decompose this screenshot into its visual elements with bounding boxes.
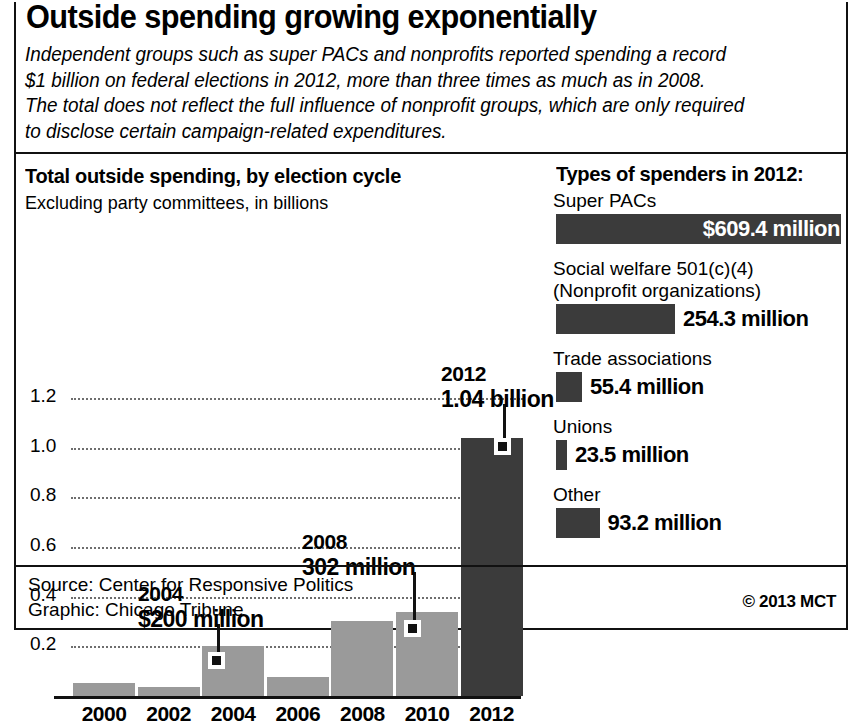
copyright-notice: © 2013 MCT — [742, 592, 836, 612]
y-axis-tick-1.0: 1.0 — [30, 435, 56, 457]
gridline-0.6 — [71, 547, 523, 549]
deck-text: Independent groups such as super PACs an… — [25, 42, 791, 144]
spender-bar — [556, 304, 675, 334]
gridline-0.8 — [71, 497, 523, 499]
spenders-title: Types of spenders in 2012: — [556, 162, 803, 186]
x-axis-line — [54, 696, 521, 699]
spender-value: 55.4 million — [590, 372, 704, 402]
bar-2008 — [331, 621, 393, 696]
x-axis-tick-2010: 2010 — [391, 702, 463, 725]
spender-bar-row: 23.5 million — [553, 440, 848, 470]
spenders-panel: Types of spenders in 2012: Super PACs$60… — [553, 158, 848, 563]
x-axis-tick-2002: 2002 — [133, 702, 205, 725]
spender-bar-row: $609.4 million — [553, 214, 848, 244]
callout-year-2012: 2012 — [441, 362, 554, 386]
callout-marker-2004 — [208, 652, 225, 669]
spender-label: Super PACs — [553, 190, 848, 212]
spender-item: Trade associations55.4 million — [553, 348, 848, 402]
gridline-1.0 — [71, 448, 523, 450]
spender-label: Unions — [553, 416, 848, 438]
callout-marker-2008 — [404, 620, 421, 637]
source-line: Source: Center for Responsive Politics — [28, 572, 353, 597]
spender-bar-row: 254.3 million — [553, 304, 848, 334]
spender-label: (Nonprofit organizations) — [553, 280, 848, 302]
spender-label: Trade associations — [553, 348, 848, 370]
page-title: Outside spending growing exponentially — [26, 0, 596, 36]
spender-value: $609.4 million — [703, 214, 840, 244]
bar-2006 — [267, 677, 329, 696]
spender-bar-row: 93.2 million — [553, 508, 848, 538]
x-axis-tick-2000: 2000 — [68, 702, 140, 725]
spender-value: 93.2 million — [608, 508, 722, 538]
bar-2000 — [73, 683, 135, 696]
deck-line-2: $1 billion on federal elections in 2012,… — [25, 68, 791, 94]
divider-bottom — [16, 565, 846, 567]
spender-item: Super PACs$609.4 million — [553, 190, 848, 244]
y-axis-tick-1.2: 1.2 — [30, 385, 56, 407]
y-axis-tick-0.8: 0.8 — [30, 484, 56, 506]
deck-line-4: to disclose certain campaign-related exp… — [25, 119, 791, 145]
bar-2002 — [138, 687, 200, 696]
callout-marker-2012 — [494, 438, 511, 455]
x-axis-tick-2006: 2006 — [262, 702, 334, 725]
x-axis-tick-2012: 2012 — [456, 702, 528, 725]
spender-item: Unions23.5 million — [553, 416, 848, 470]
deck-line-3: The total does not reflect the full infl… — [25, 93, 791, 119]
y-axis-tick-0.6: 0.6 — [30, 534, 56, 556]
spender-bar-row: 55.4 million — [553, 372, 848, 402]
spender-item: Social welfare 501(c)(4)(Nonprofit organ… — [553, 258, 848, 334]
y-axis-tick-0.2: 0.2 — [30, 633, 56, 655]
spender-label: Other — [553, 484, 848, 506]
x-axis-tick-2008: 2008 — [326, 702, 398, 725]
spender-label: Social welfare 501(c)(4) — [553, 258, 848, 280]
graphic-credit-line: Graphic: Chicago Tribune — [28, 597, 353, 622]
divider-top — [16, 152, 846, 154]
spender-value: 23.5 million — [575, 440, 689, 470]
deck-line-1: Independent groups such as super PACs an… — [25, 42, 791, 68]
spender-bar — [556, 440, 567, 470]
spender-value: 254.3 million — [683, 304, 809, 334]
callout-value-2012: 1.04 billion — [441, 386, 554, 413]
callout-year-2008: 2008 — [302, 530, 415, 554]
x-axis-tick-2004: 2004 — [197, 702, 269, 725]
spender-bar — [556, 372, 582, 402]
callout-2012: 20121.04 billion — [441, 362, 554, 413]
spender-item: Other93.2 million — [553, 484, 848, 538]
chart-plot-area: 1.21.00.80.60.40.22000200220042006200820… — [16, 158, 521, 563]
chart-panel: Total outside spending, by election cycl… — [16, 158, 521, 563]
footer: Source: Center for Responsive Politics G… — [28, 572, 353, 622]
spender-bar — [556, 508, 600, 538]
